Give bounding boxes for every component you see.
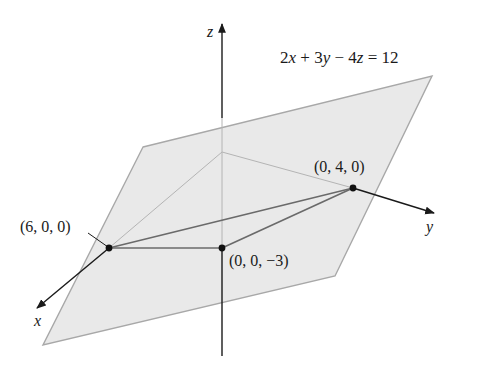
plane bbox=[43, 76, 432, 345]
point-x-intercept bbox=[106, 245, 113, 252]
y-axis-label: y bbox=[424, 218, 434, 236]
z-axis-label: z bbox=[206, 23, 214, 40]
x-axis-label: x bbox=[33, 312, 41, 329]
plane-intercepts-diagram: z x y 2x + 3y − 4z = 12 (6, 0, 0) (0, 4,… bbox=[0, 0, 478, 385]
point-y-intercept bbox=[350, 185, 357, 192]
label-y-intercept: (0, 4, 0) bbox=[314, 158, 365, 176]
label-x-intercept: (6, 0, 0) bbox=[20, 218, 71, 236]
point-z-intercept bbox=[219, 245, 226, 252]
label-z-intercept: (0, 0, −3) bbox=[229, 252, 289, 270]
plane-equation: 2x + 3y − 4z = 12 bbox=[280, 48, 399, 67]
